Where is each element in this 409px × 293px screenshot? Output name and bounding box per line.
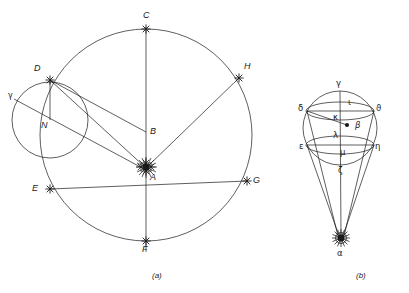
center-dot-beta <box>345 123 349 127</box>
point-marker-h <box>234 73 243 82</box>
point-marker-e <box>45 184 54 193</box>
point-label-delta: δ <box>298 104 303 113</box>
point-label-epsilon: ε <box>299 142 304 151</box>
point-label-kappa: κ <box>333 113 338 122</box>
point-label-c: C <box>143 11 150 20</box>
point-label-eta: η <box>375 142 380 151</box>
point-marker-d <box>45 75 54 84</box>
ray-epsilon-alpha <box>307 145 339 236</box>
point-label-a: A <box>150 173 156 182</box>
point-label-n: N <box>41 121 48 130</box>
point-label-gamma-a: γ <box>8 92 13 100</box>
figure-canvas: C H G F E D B N A γ γ ι δ ϑ κ β λ ε μ η … <box>0 0 409 293</box>
ray-eta-alpha <box>343 145 374 236</box>
point-label-e: E <box>32 184 38 193</box>
radius-delta-beta <box>307 111 347 125</box>
point-label-g: G <box>253 176 260 185</box>
point-label-f: F <box>142 245 148 254</box>
panel-a-graphics <box>12 24 252 252</box>
point-label-h: H <box>244 62 251 71</box>
point-label-mu: μ <box>340 148 345 157</box>
caption-b: (b) <box>356 271 366 280</box>
point-label-lambda: λ <box>333 131 338 140</box>
point-label-theta: ϑ <box>376 104 381 113</box>
caption-a: (a) <box>152 271 162 280</box>
point-label-alpha: α <box>337 249 343 258</box>
point-label-d: D <box>34 64 41 73</box>
point-marker-g <box>242 176 251 185</box>
point-label-b: B <box>150 127 156 136</box>
sun-symbol-alpha <box>332 229 350 247</box>
figure-vector-layer <box>0 0 409 293</box>
point-label-iota: ι <box>348 98 351 107</box>
line-a-h <box>146 78 239 168</box>
line-gamma-a <box>14 99 146 170</box>
point-label-zeta: ζ <box>338 166 343 175</box>
line-e-g <box>50 181 247 189</box>
point-label-beta: β <box>355 121 360 130</box>
point-marker-c <box>141 24 150 33</box>
point-label-gamma: γ <box>336 79 341 88</box>
axis-gamma-alpha <box>340 91 341 236</box>
